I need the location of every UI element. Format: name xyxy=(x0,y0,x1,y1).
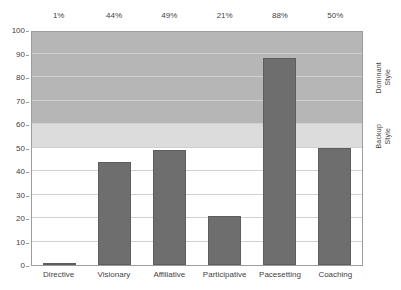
bar-affiliative[interactable] xyxy=(153,150,186,265)
y-tick-label: 0 xyxy=(21,262,25,270)
value-label-pacesetting: 88% xyxy=(252,10,307,24)
y-tick-mark xyxy=(26,78,29,79)
y-tick-mark xyxy=(26,55,29,56)
bar-slot-affiliative xyxy=(142,32,197,265)
bar-participative[interactable] xyxy=(208,216,241,265)
bar-slot-participative xyxy=(197,32,252,265)
bar-directive[interactable] xyxy=(43,263,76,265)
x-axis: DirectiveVisionaryAffiliativeParticipati… xyxy=(31,268,363,284)
y-tick-mark xyxy=(26,243,29,244)
y-tick-label: 50 xyxy=(16,145,25,153)
band-label-column: Dominant StyleBackup Style xyxy=(364,31,401,266)
y-tick-mark xyxy=(26,149,29,150)
band-label-backup-style: Backup Style xyxy=(364,125,401,149)
y-tick-label: 70 xyxy=(16,98,25,106)
y-tick-mark xyxy=(26,219,29,220)
y-tick-label: 80 xyxy=(16,74,25,82)
value-label-affiliative: 49% xyxy=(142,10,197,24)
band-label-text: Backup Style xyxy=(374,124,392,149)
y-tick-mark xyxy=(26,102,29,103)
y-tick-label: 60 xyxy=(16,121,25,129)
value-label-coaching: 50% xyxy=(308,10,363,24)
y-tick-label: 100 xyxy=(12,27,25,35)
bar-layer xyxy=(32,32,362,265)
x-tick-label-coaching: Coaching xyxy=(308,268,363,284)
y-axis: 0102030405060708090100 xyxy=(0,31,29,266)
y-tick-label: 40 xyxy=(16,168,25,176)
value-label-row: 1%44%49%21%88%50% xyxy=(31,10,363,24)
value-label-visionary: 44% xyxy=(86,10,141,24)
plot-area xyxy=(31,31,363,266)
bar-pacesetting[interactable] xyxy=(263,58,296,265)
x-tick-label-directive: Directive xyxy=(31,268,86,284)
bar-coaching[interactable] xyxy=(318,148,351,266)
bar-visionary[interactable] xyxy=(98,162,131,265)
x-tick-label-visionary: Visionary xyxy=(86,268,141,284)
y-tick-label: 90 xyxy=(16,51,25,59)
value-label-directive: 1% xyxy=(31,10,86,24)
bar-slot-visionary xyxy=(87,32,142,265)
bar-slot-directive xyxy=(32,32,87,265)
bar-slot-coaching xyxy=(307,32,362,265)
y-tick-mark xyxy=(26,172,29,173)
bar-slot-pacesetting xyxy=(252,32,307,265)
y-tick-mark xyxy=(26,31,29,32)
y-tick-label: 30 xyxy=(16,192,25,200)
y-tick-label: 10 xyxy=(16,239,25,247)
x-tick-label-participative: Participative xyxy=(197,268,252,284)
y-tick-mark xyxy=(26,125,29,126)
x-tick-label-affiliative: Affiliative xyxy=(142,268,197,284)
y-tick-mark xyxy=(26,196,29,197)
value-label-participative: 21% xyxy=(197,10,252,24)
y-tick-label: 20 xyxy=(16,215,25,223)
band-label-dominant-style: Dominant Style xyxy=(364,31,401,125)
bar-chart: 1%44%49%21%88%50% 0102030405060708090100… xyxy=(0,0,401,290)
x-tick-label-pacesetting: Pacesetting xyxy=(252,268,307,284)
band-label-text: Dominant Style xyxy=(374,62,392,94)
y-tick-mark xyxy=(26,266,29,267)
